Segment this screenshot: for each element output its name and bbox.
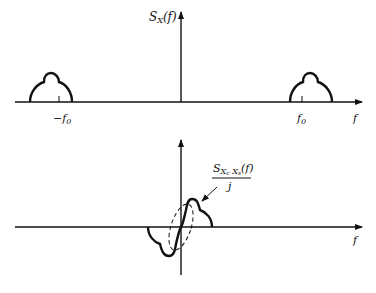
top-y-label: SX(f) bbox=[149, 10, 177, 25]
tick-neg-label: −f0 bbox=[53, 112, 71, 126]
right-spectrum-lobe bbox=[290, 73, 332, 102]
bottom-plot: SXc Xs(f) j f bbox=[15, 140, 362, 275]
top-plot: SX(f) −f0 f0 f bbox=[15, 10, 362, 126]
spectrum-diagram: SX(f) −f0 f0 f SXc Xs(f) j f bbox=[0, 0, 376, 293]
annotation-denominator: j bbox=[225, 180, 232, 193]
left-spectrum-lobe bbox=[30, 73, 72, 102]
top-x-label: f bbox=[352, 112, 359, 125]
annotation-numerator: SXc Xs(f) bbox=[213, 162, 254, 176]
annotation-arrow bbox=[202, 187, 217, 201]
tick-pos-label: f0 bbox=[296, 112, 306, 126]
bottom-x-label: f bbox=[352, 234, 359, 247]
